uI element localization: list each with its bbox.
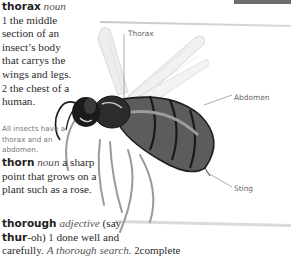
label-sting: Sting <box>234 184 253 193</box>
pronunciation-rest: -oh) <box>27 231 46 243</box>
definition: complete <box>139 244 180 256</box>
pronunciation-stress: thur <box>2 231 27 243</box>
entry-thorough: thorough adjective (say thur-oh) 1 done … <box>2 217 302 258</box>
definition: the middle section of an insect’s body t… <box>2 14 71 80</box>
side-note: All insects have a thorax and an abdomen… <box>2 124 72 156</box>
definition: the chest of a human. <box>2 82 69 108</box>
entry-thorax: thorax noun 1 the middle section of an i… <box>2 0 72 109</box>
definition: done well and <box>56 231 119 243</box>
headword: thorn <box>2 156 34 168</box>
entry-thorn: thorn noun a sharp point that grows on a… <box>2 156 97 197</box>
definition-cont: carefully. <box>2 244 44 256</box>
sense-number: 2 <box>2 83 7 94</box>
example: A thorough search. <box>47 244 132 256</box>
label-thorax: Thorax <box>128 29 154 38</box>
part-of-speech: noun <box>37 156 59 168</box>
part-of-speech: adjective <box>59 217 99 229</box>
label-abdomen: Abdomen <box>234 93 269 102</box>
headword: thorax <box>2 0 41 12</box>
sense-number: 1 <box>49 232 54 243</box>
sense-number: 1 <box>2 15 7 26</box>
headword: thorough <box>2 217 57 229</box>
pronunciation-open: (say <box>103 217 122 229</box>
part-of-speech: noun <box>44 0 66 12</box>
